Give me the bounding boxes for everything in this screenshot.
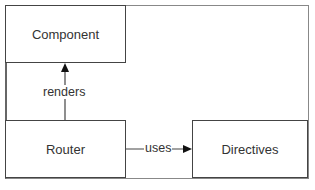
renders-edge-label: renders [42, 85, 86, 99]
arrowhead-right-icon [183, 145, 192, 153]
component-label: Component [32, 27, 99, 42]
arrowhead-up-icon [61, 63, 69, 72]
uses-edge-label: uses [144, 141, 172, 155]
router-node: Router [5, 120, 126, 178]
router-label: Router [46, 142, 85, 157]
component-node: Component [5, 5, 126, 63]
directives-label: Directives [221, 142, 278, 157]
directives-node: Directives [192, 120, 308, 178]
